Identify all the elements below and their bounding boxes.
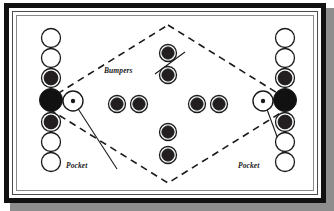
- bumper-core-7: [162, 149, 174, 161]
- wall-target-open-1: [42, 49, 61, 68]
- playfield: [17, 16, 313, 190]
- pocket-label-left: Pocket: [66, 161, 87, 170]
- frame-shadow-right: [326, 8, 334, 211]
- figure-root: Bumpers Pocket Pocket: [0, 0, 334, 211]
- bumper-core-1: [162, 69, 174, 81]
- wall-target-open-5: [42, 133, 61, 152]
- bumper-core-3: [133, 98, 145, 110]
- wall-target-open-0: [276, 29, 295, 48]
- bumper-core-4: [191, 98, 203, 110]
- playfield-svg: [17, 16, 313, 190]
- frame-shadow-bottom: [10, 203, 334, 211]
- wall-target-solid-3: [274, 89, 297, 112]
- pockets-group: [63, 91, 273, 111]
- pocket-center-dot-1: [261, 99, 265, 103]
- wall-target-solid-3: [40, 89, 63, 112]
- wall-target-ring-inner-2: [44, 71, 58, 85]
- right-wall-targets-group: [274, 29, 297, 172]
- center-bumpers-group: [109, 45, 228, 164]
- wall-target-open-5: [276, 133, 295, 152]
- leader-line-1: [75, 104, 117, 169]
- pocket-label-right: Pocket: [238, 161, 259, 170]
- bumpers-label: Bumpers: [104, 66, 133, 75]
- left-wall-targets-group: [40, 29, 63, 172]
- wall-target-ring-inner-4: [278, 115, 292, 129]
- pocket-center-dot-0: [71, 99, 75, 103]
- wall-target-open-6: [42, 153, 61, 172]
- bumper-core-5: [213, 98, 225, 110]
- bumper-core-2: [111, 98, 123, 110]
- wall-target-open-0: [42, 29, 61, 48]
- bumper-core-6: [162, 126, 174, 138]
- wall-target-ring-inner-4: [44, 115, 58, 129]
- wall-target-ring-inner-2: [278, 71, 292, 85]
- wall-target-open-1: [276, 49, 295, 68]
- bumper-core-0: [162, 47, 174, 59]
- wall-target-open-6: [276, 153, 295, 172]
